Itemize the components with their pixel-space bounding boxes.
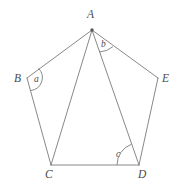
diagonal-AC xyxy=(51,30,92,165)
angle-label-a: a xyxy=(34,75,39,85)
vertex-label-D: D xyxy=(138,169,146,181)
vertex-label-A: A xyxy=(87,9,94,21)
vertex-label-B: B xyxy=(14,73,21,85)
angle-label-b: b xyxy=(101,40,106,50)
angle-label-c: c xyxy=(116,150,120,160)
diagonal-AD xyxy=(92,30,139,165)
side-AB xyxy=(27,30,92,78)
side-EA xyxy=(92,30,158,78)
vertex-label-E: E xyxy=(162,73,169,85)
side-BC xyxy=(27,78,51,165)
geometry-figure: A B C D E a b c xyxy=(0,0,183,182)
pentagon-diagram-svg xyxy=(0,0,183,182)
side-DE xyxy=(139,78,158,165)
vertex-label-C: C xyxy=(45,169,53,181)
vertex-dot-A xyxy=(90,28,93,31)
